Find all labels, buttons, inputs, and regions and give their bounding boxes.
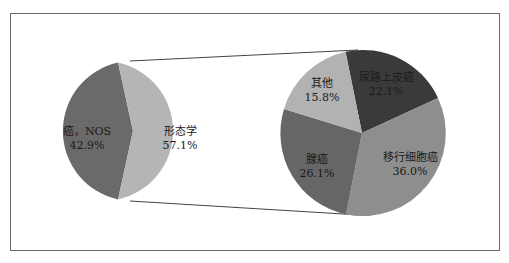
label-morphology-pct: 57.1% <box>163 139 198 152</box>
label-cancer-nos-pct: 42.9% <box>70 139 105 152</box>
label-transitional-name: 移行细胞癌 <box>383 150 438 164</box>
label-transitional-pct: 36.0% <box>393 165 428 178</box>
pie-of-pie-chart: 癌，NOS 42.9% 形态学 57.1% 尿路上皮癌 22.1% 移行细胞癌 … <box>0 0 509 263</box>
label-adeno-pct: 26.1% <box>300 167 335 180</box>
label-morphology-name: 形态学 <box>164 124 197 138</box>
connector-top <box>130 50 358 61</box>
label-other-name: 其他 <box>311 77 333 90</box>
label-other-pct: 15.8% <box>305 91 340 104</box>
label-cancer-nos-name: 癌，NOS <box>63 124 111 138</box>
label-urothelial-pct: 22.1% <box>369 85 404 98</box>
label-adeno-name: 腺癌 <box>306 152 328 166</box>
label-urothelial-name: 尿路上皮癌 <box>359 70 414 84</box>
